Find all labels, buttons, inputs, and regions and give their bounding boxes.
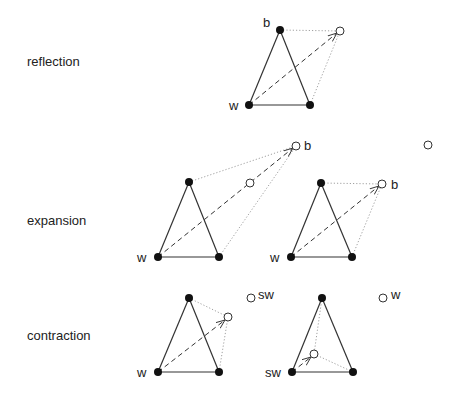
reflected-point <box>336 27 344 35</box>
label-b: b <box>304 138 311 153</box>
row-label-expansion: expansion <box>27 213 86 228</box>
label-w: w <box>136 365 147 380</box>
label-b: b <box>391 177 398 192</box>
label-w: w <box>269 250 280 265</box>
label-b: b <box>263 15 270 30</box>
stray-point <box>424 141 432 149</box>
expansion-diagram-right: b w <box>269 177 398 265</box>
expansion-diagram-left: b w <box>136 138 311 265</box>
label-sw: sw <box>265 365 282 380</box>
new-best-point <box>378 180 386 188</box>
reflected-point <box>246 179 254 187</box>
contracted-point <box>310 350 318 358</box>
contraction-diagram-right: w sw <box>265 287 401 380</box>
label-w: w <box>390 287 401 302</box>
reflected-point <box>379 294 387 302</box>
nelder-mead-diagram: reflection expansion contraction b w b w <box>0 0 455 396</box>
contraction-diagram-left: sw w <box>136 287 275 380</box>
expanded-point <box>292 142 300 150</box>
label-sw: sw <box>258 287 275 302</box>
row-label-contraction: contraction <box>27 328 91 343</box>
reflection-diagram: b w <box>228 15 344 113</box>
label-w: w <box>136 250 147 265</box>
reflected-point <box>247 294 255 302</box>
row-label-reflection: reflection <box>27 54 80 69</box>
contracted-point <box>224 313 232 321</box>
label-w: w <box>228 98 239 113</box>
